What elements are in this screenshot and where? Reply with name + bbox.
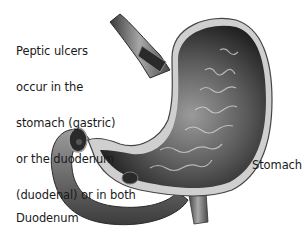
description-line: or the duodenum [16,153,136,165]
description-line: Peptic ulcers [16,45,136,57]
stomach-label: Stomach [252,159,302,171]
description-text: Peptic ulcers occur in the stomach (gast… [16,21,136,213]
description-line: (duodenal) or in both [16,189,136,201]
description-line: occur in the [16,81,136,93]
description-line: stomach (gastric) [16,117,136,129]
duodenum-label: Duodenum [16,212,79,224]
